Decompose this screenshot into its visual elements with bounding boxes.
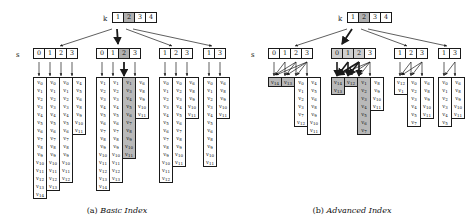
value-cell: v9	[97, 142, 109, 150]
value-column[interactable]: v0v1v2v3v4v5v6v8v9v10v11	[203, 77, 217, 167]
value-cell: v8	[421, 86, 433, 94]
value-cell: v3	[60, 102, 72, 110]
value-column[interactable]: v0v1v2v3v4v5	[438, 77, 452, 127]
s-cell[interactable]: 3	[129, 48, 141, 59]
value-cell: v3	[97, 94, 109, 102]
value-column[interactable]: v0v1v2v3v4v5v6v7v8v9v10v11v12	[159, 77, 173, 183]
value-cell: v6	[73, 94, 85, 102]
value-cell: v12	[295, 118, 307, 126]
value-column[interactable]: v8v9v10v11	[370, 77, 384, 111]
value-cell: v6	[110, 118, 122, 126]
value-cell: v4	[308, 78, 320, 86]
value-cell: v7	[160, 134, 172, 142]
value-column[interactable]: v0v1v2v3v4v5v6v7v8v9v10v11v12	[59, 77, 73, 183]
value-cell: v11	[421, 110, 433, 118]
value-cell: v9	[173, 142, 185, 150]
value-column[interactable]: v6v8v9v10v11	[135, 77, 149, 119]
value-column[interactable]: v12	[344, 77, 358, 87]
value-column[interactable]: v1v3v4v5v6v7v8v9v10v11	[122, 77, 136, 159]
value-cell: v7	[358, 126, 370, 134]
s-cell[interactable]: 3	[416, 48, 428, 59]
value-column[interactable]: v6v8v9v10v11	[185, 77, 199, 119]
value-cell: v1	[439, 86, 451, 94]
value-cell: v11	[217, 110, 229, 118]
value-cell: v4	[123, 94, 135, 102]
value-column-group: v0v1v2v3v4v5v6v8v9v10v11	[438, 77, 465, 127]
s-group: 1 2 3	[159, 48, 193, 59]
value-cell: v2	[295, 94, 307, 102]
value-cell: v2	[439, 94, 451, 102]
value-cell: v10	[47, 158, 59, 166]
value-cell: v13	[97, 174, 109, 182]
value-column[interactable]: v14	[268, 77, 282, 87]
value-cell: v7	[110, 126, 122, 134]
k-cell[interactable]: 4	[145, 12, 157, 23]
value-cell: v0	[160, 78, 172, 86]
value-cell: v5	[408, 110, 420, 118]
value-cell: v3	[439, 102, 451, 110]
value-cell: v0	[60, 78, 72, 86]
value-cell: v1	[123, 78, 135, 86]
value-cell: v4	[97, 102, 109, 110]
value-cell: v5	[204, 118, 216, 126]
value-cell: v1	[295, 86, 307, 94]
value-column[interactable]: v1v2v3v4v5v6v7v8v9v10v11v12v13	[109, 77, 123, 183]
value-column[interactable]: v0v1v2v3v7v12	[294, 77, 308, 127]
value-cell: v8	[34, 142, 46, 150]
s-cell[interactable]: 3	[181, 48, 193, 59]
value-column[interactable]: v1v2v3v4v5v6v7v8v9v10v11v12v13v14	[96, 77, 110, 191]
value-cell: v11	[136, 110, 148, 118]
k-cell[interactable]: 4	[380, 12, 392, 23]
value-cell: v3	[358, 94, 370, 102]
value-cell: v3	[408, 94, 420, 102]
value-cell: v0	[295, 78, 307, 86]
value-column[interactable]: v1v2v3v4v5v6v7	[357, 77, 371, 135]
value-column[interactable]: v0v2v3v4v5v6v7v8v9v10v11	[172, 77, 186, 167]
value-column[interactable]: v0v1v2v3v4v5v6v7v8v9v10v11v12v13v14	[33, 77, 47, 199]
value-cell: v1	[358, 78, 370, 86]
s-cell[interactable]: 3	[301, 48, 313, 59]
value-cell: v9	[34, 150, 46, 158]
value-column[interactable]: v4v5v6v8v9v10v11	[72, 77, 86, 135]
value-column[interactable]: v4v5v6v8v9v10v11	[307, 77, 321, 135]
value-cell: v2	[60, 94, 72, 102]
value-column[interactable]: v14v13	[331, 77, 345, 95]
value-cell: v7	[60, 134, 72, 142]
value-cell: v0	[34, 78, 46, 86]
value-column[interactable]: v13	[281, 77, 295, 87]
value-column[interactable]: v12v1	[394, 77, 408, 95]
s-cell[interactable]: 3	[364, 48, 376, 59]
panel-caption: (a) Basic Index	[0, 206, 234, 215]
value-column[interactable]: v6v8v9v10v11	[216, 77, 230, 119]
value-cell: v6	[421, 78, 433, 86]
value-cell: v8	[204, 134, 216, 142]
panel-caption: (b) Advanced Index	[235, 206, 469, 215]
value-column[interactable]: v6v8v9v10v11	[420, 77, 434, 119]
value-cell: v12	[34, 174, 46, 182]
value-cell: v2	[34, 94, 46, 102]
value-cell: v6	[452, 78, 464, 86]
value-cell: v9	[421, 94, 433, 102]
value-cell: v7	[47, 134, 59, 142]
k-row-label: k	[103, 15, 107, 23]
s-cell[interactable]: 3	[214, 48, 226, 59]
value-column[interactable]: v0v2v3v4v5v7	[407, 77, 421, 127]
value-cell: v8	[110, 134, 122, 142]
value-column[interactable]: v6v8v9v10v11	[451, 77, 465, 119]
k-row-label: k	[338, 15, 342, 23]
panel-basic-index: k 1 2 3 4 s 0 1 2 3 0 1 2 3 1 2 3 1 3	[0, 0, 234, 218]
value-cell: v5	[97, 110, 109, 118]
value-cell: v3	[34, 102, 46, 110]
value-column[interactable]: v0v1v2v3v4v5v6v7v8v9v10v11v12v13	[46, 77, 60, 191]
value-cell: v4	[408, 102, 420, 110]
value-cell: v9	[160, 150, 172, 158]
value-column-group: v14v13v0v1v2v3v7v12v4v5v6v8v9v10v11	[268, 77, 321, 135]
value-cell: v9	[73, 110, 85, 118]
s-cell[interactable]: 3	[66, 48, 78, 59]
value-cell: v5	[439, 118, 451, 126]
value-cell: v0	[408, 78, 420, 86]
value-cell: v12	[110, 166, 122, 174]
value-cell: v2	[204, 94, 216, 102]
value-cell: v5	[73, 86, 85, 94]
s-cell[interactable]: 3	[449, 48, 461, 59]
